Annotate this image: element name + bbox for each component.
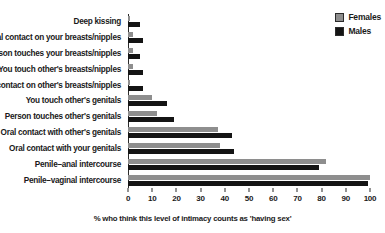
bar-males <box>128 86 143 91</box>
x-axis-tick <box>176 188 177 192</box>
category-label: Person touches your breasts/nipples <box>0 46 124 62</box>
category-label: Oral contact on your breasts/nipples <box>0 30 124 46</box>
bar-females <box>128 80 130 85</box>
x-axis: 0102030405060708090100 <box>128 188 370 208</box>
bar-group <box>128 172 370 188</box>
bar-females <box>128 95 152 100</box>
bar-group <box>128 156 370 172</box>
bar-males <box>128 22 140 27</box>
bar-group <box>128 61 370 77</box>
x-axis-tick-label: 0 <box>126 194 130 203</box>
y-axis-category-labels: Deep kissingOral contact on your breasts… <box>0 14 124 188</box>
bar-group <box>128 77 370 93</box>
bar-group <box>128 125 370 141</box>
bar-males <box>128 54 140 59</box>
bar-females <box>128 32 133 37</box>
bar-males <box>128 101 167 106</box>
bar-group <box>128 30 370 46</box>
bar-group <box>128 93 370 109</box>
x-axis-tick-label: 30 <box>196 194 205 203</box>
x-axis-tick-label: 10 <box>148 194 157 203</box>
bar-group <box>128 14 370 30</box>
x-axis-tick-label: 70 <box>293 194 302 203</box>
x-axis-tick-label: 40 <box>221 194 230 203</box>
bar-females <box>128 159 326 164</box>
x-axis-tick-label: 90 <box>342 194 351 203</box>
x-axis-tick-label: 50 <box>245 194 254 203</box>
bar-groups <box>128 14 370 188</box>
category-label: Oral contact on other's breasts/nipples <box>0 77 124 93</box>
category-label: Oral contact with your genitals <box>0 141 124 157</box>
x-axis-tick <box>224 188 225 192</box>
category-label: Penile–anal intercourse <box>0 156 124 172</box>
bar-females <box>128 111 157 116</box>
x-axis-tick <box>273 188 274 192</box>
x-axis-tick <box>345 188 346 192</box>
x-axis-tick-label: 80 <box>317 194 326 203</box>
x-axis-tick <box>249 188 250 192</box>
bar-females <box>128 175 370 180</box>
category-label: You touch other's genitals <box>0 93 124 109</box>
x-axis-tick <box>321 188 322 192</box>
bar-males <box>128 38 143 43</box>
x-axis-tick <box>152 188 153 192</box>
x-axis-tick <box>297 188 298 192</box>
x-axis-tick-label: 100 <box>364 194 377 203</box>
bar-males <box>128 70 143 75</box>
plot-area <box>128 14 370 188</box>
bar-males <box>128 117 174 122</box>
category-label: Deep kissing <box>0 14 124 30</box>
bar-chart: Females Males Deep kissingOral contact o… <box>0 0 385 233</box>
category-label: Person touches other's genitals <box>0 109 124 125</box>
x-axis-tick-label: 60 <box>269 194 278 203</box>
bar-males <box>128 133 232 138</box>
x-axis-tick <box>128 188 129 192</box>
category-label: Penile–vaginal intercourse <box>0 172 124 188</box>
x-axis-title: % who think this level of intimacy count… <box>0 214 385 223</box>
bar-males <box>128 165 319 170</box>
category-label: You touch other's breasts/nipples <box>0 61 124 77</box>
bar-females <box>128 64 133 69</box>
bar-group <box>128 141 370 157</box>
x-axis-tick <box>370 188 371 192</box>
bar-females <box>128 16 130 21</box>
bar-group <box>128 109 370 125</box>
bar-males <box>128 181 368 186</box>
category-label: Oral contact with other's genitals <box>0 125 124 141</box>
bar-females <box>128 127 218 132</box>
bar-females <box>128 48 133 53</box>
bar-females <box>128 143 220 148</box>
bar-males <box>128 149 234 154</box>
x-axis-tick-label: 20 <box>172 194 181 203</box>
bar-group <box>128 46 370 62</box>
x-axis-tick <box>200 188 201 192</box>
